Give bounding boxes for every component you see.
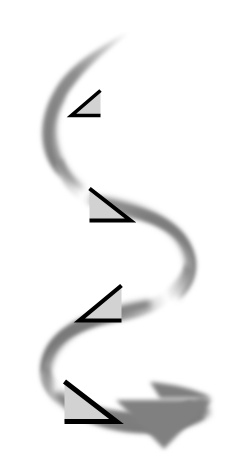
spiral-ribbon-arrow-graphic	[0, 0, 240, 472]
artboard: Descending spiral ribbon arrow with angl…	[0, 0, 240, 472]
